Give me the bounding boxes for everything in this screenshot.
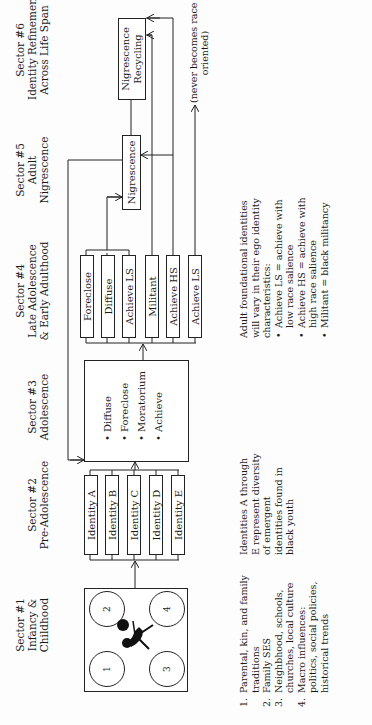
adult-identity-foreclose: Foreclose — [80, 255, 94, 338]
identity-label: Achieve LS — [190, 268, 201, 325]
sector-1-subtitle-line-1: Infancy & — [26, 580, 38, 670]
status-diffuse: Diffuse — [99, 361, 116, 441]
sector-6-subtitle-line-1: Identity Refinement — [26, 0, 38, 100]
circle-number: 3 — [162, 666, 172, 672]
item-text: Parental, kin, and family traditions — [238, 567, 261, 693]
sector-2-note: Identities A through E represent diversi… — [238, 450, 296, 555]
influence-item-2: 2.Family SES — [261, 567, 273, 707]
sector-4-title: Sector #4 — [14, 239, 26, 343]
sector-3-title: Sector #3 — [26, 367, 38, 447]
influence-item-4: 4.Macro influences: politics, social pol… — [296, 567, 331, 707]
nigrescence-recycling-box: Nigrescence Recycling — [118, 18, 146, 100]
status-moratorium: Moratorium — [133, 361, 150, 441]
sector-6-subtitle-line-2: Across Life Span — [38, 0, 50, 100]
item-text: Family SES — [261, 567, 273, 693]
sector-4-note: Adult foundational identities will vary … — [238, 188, 330, 338]
sector-4-subtitle-line-1: Late Adolescence — [26, 239, 38, 343]
identity-box-c: Identity C — [127, 475, 141, 555]
sector-1-influences-list: 1.Parental, kin, and family traditions 2… — [238, 567, 330, 707]
recycling-label-line-1: Nigrescence — [120, 27, 132, 91]
circle-number: 2 — [102, 606, 112, 612]
sector-2-label: Sector #2 Pre-Adolescence — [26, 455, 50, 555]
sector-5-subtitle-line-1: Adult — [26, 130, 38, 210]
definition-militant: •Militant = black militancy — [319, 188, 331, 338]
sector-4-label: Sector #4 Late Adolescence & Early Adult… — [14, 239, 50, 343]
identity-label: Diffuse — [103, 279, 114, 315]
identity-box-a: Identity A — [84, 475, 98, 555]
adult-identity-achieve-ls: Achieve LS — [122, 255, 136, 338]
sector-2-title: Sector #2 — [26, 455, 38, 555]
definition-achieve-hs: •Achieve HS = achieve with high race sal… — [296, 188, 319, 338]
sector-5-subtitle-line-2: Nigrescence — [38, 130, 50, 210]
sector-6-title: Sector #6 — [14, 0, 26, 100]
sector-3-box: Diffuse Foreclose Moratorium Achieve — [84, 360, 189, 462]
influence-item-3: 3.Neighbhood, schools, churches, local c… — [273, 567, 296, 707]
identity-label: Achieve LS — [124, 268, 135, 325]
sector-3-label: Sector #3 Adolescence — [26, 367, 50, 447]
sector-5-label: Sector #5 Adult Nigrescence — [14, 130, 50, 210]
status-achieve: Achieve — [150, 361, 167, 441]
never-race-line-2: oriented) — [199, 3, 210, 103]
nigrescence-box: Nigrescence — [122, 135, 141, 210]
sector-2-subtitle-line-1: Pre-Adolescence — [38, 455, 50, 555]
identity-label: Identity B — [107, 490, 118, 540]
item-number: 4. — [296, 693, 331, 707]
circle-number: 4 — [162, 606, 172, 612]
identity-label: Militant — [147, 276, 158, 316]
identity-label: Identity A — [86, 490, 97, 540]
identity-label: Foreclose — [82, 272, 93, 321]
item-text: Macro influences: politics, social polic… — [296, 567, 331, 693]
identity-box-b: Identity B — [105, 475, 119, 555]
adult-identity-diffuse: Diffuse — [101, 255, 115, 338]
identity-box-d: Identity D — [149, 475, 163, 555]
adult-identities-intro: Adult foundational identities will vary … — [238, 188, 273, 338]
definition-text: Achieve LS = achieve with low race salie… — [273, 188, 296, 328]
item-number: 3. — [273, 693, 296, 707]
never-race-line-1: (never becomes race — [188, 3, 199, 103]
sector-5-title: Sector #5 — [14, 130, 26, 210]
sector-1-label: Sector #1 Infancy & Childhood — [14, 580, 50, 670]
adult-identity-achieve-hs: Achieve HS — [166, 255, 180, 338]
nigrescence-life-span-diagram: Sector #1 Infancy & Childhood Sector #2 … — [0, 0, 372, 725]
definition-text: Achieve HS = achieve with high race sali… — [296, 188, 319, 328]
sector-4-subtitle-line-2: & Early Adulthood — [38, 239, 50, 343]
sector-1-box: 1 2 3 4 — [84, 588, 188, 692]
never-race-oriented-label: (never becomes race oriented) — [188, 3, 210, 103]
identity-box-e: Identity E — [171, 475, 185, 555]
definition-achieve-ls: •Achieve LS = achieve with low race sali… — [273, 188, 296, 338]
circle-number: 1 — [102, 666, 112, 672]
identity-label: Identity C — [129, 490, 140, 540]
status-foreclose: Foreclose — [116, 361, 133, 441]
identity-label: Identity E — [173, 490, 184, 540]
adult-identity-achieve-ls-2: Achieve LS — [188, 255, 202, 338]
identity-label: Achieve HS — [168, 267, 179, 326]
identity-label: Identity D — [151, 490, 162, 541]
item-number: 2. — [261, 693, 273, 707]
sector-6-label: Sector #6 Identity Refinement Across Lif… — [14, 0, 50, 100]
sector-1-subtitle-line-2: Childhood — [38, 580, 50, 670]
recycling-label-line-2: Recycling — [132, 34, 144, 84]
adolescence-status-list: Diffuse Foreclose Moratorium Achieve — [99, 361, 167, 441]
item-text: Neighbhood, schools, churches, local cul… — [273, 567, 296, 693]
nigrescence-label: Nigrescence — [126, 141, 137, 205]
item-number: 1. — [238, 693, 261, 707]
sector-3-subtitle-line-1: Adolescence — [38, 367, 50, 447]
identities-note-text: Identities A through E represent diversi… — [238, 453, 295, 555]
definition-text: Militant = black militancy — [319, 188, 331, 328]
adult-identity-militant: Militant — [145, 255, 159, 338]
child-with-ball-icon — [113, 615, 159, 661]
sector-1-title: Sector #1 — [14, 580, 26, 670]
influence-item-1: 1.Parental, kin, and family traditions — [238, 567, 261, 707]
